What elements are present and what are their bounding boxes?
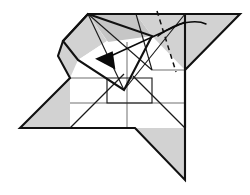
origami-figure [0,0,250,195]
origami-diagram-canvas [0,0,250,195]
paper-faces [20,14,240,180]
